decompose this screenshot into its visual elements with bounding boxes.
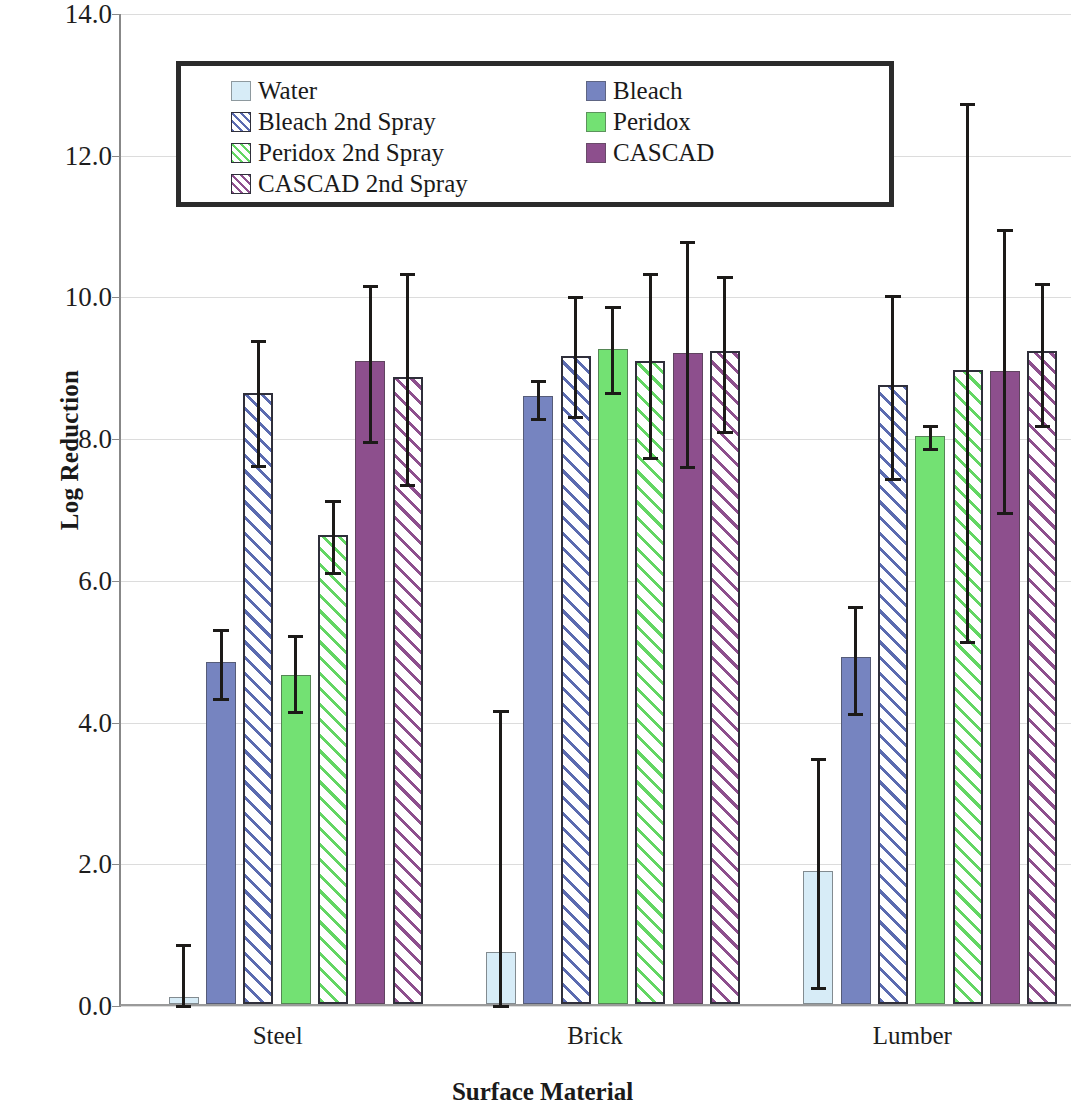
- y-axis-tick: [112, 297, 121, 298]
- y-axis-tick: [112, 1006, 121, 1007]
- error-bar-cap-upper: [848, 606, 864, 609]
- error-bar-cap-lower: [568, 416, 584, 419]
- y-axis-tick-label: 14.0: [16, 1, 112, 28]
- error-bar-cap-upper: [288, 635, 304, 638]
- error-bar: [817, 759, 820, 988]
- legend-label: Bleach 2nd Spray: [258, 109, 436, 134]
- x-axis-tick-label: Brick: [436, 1022, 753, 1050]
- error-bar-cap-lower: [997, 512, 1013, 515]
- error-bar-cap-lower: [717, 431, 733, 434]
- error-bar: [723, 278, 726, 432]
- legend-label: CASCAD 2nd Spray: [258, 171, 468, 196]
- legend-label: Peridox: [613, 109, 691, 134]
- error-bar-cap-lower: [885, 478, 901, 481]
- legend-swatch-icon: [586, 143, 606, 163]
- error-bar: [574, 297, 577, 417]
- y-axis-tick-label: 12.0: [16, 142, 112, 169]
- legend-item: CASCAD 2nd Spray: [231, 168, 586, 199]
- y-axis-tick: [112, 723, 121, 724]
- y-axis-tick-label: 0.0: [16, 993, 112, 1020]
- error-bar-cap-upper: [531, 380, 547, 383]
- legend-label: Water: [258, 78, 317, 103]
- error-bar-cap-lower: [288, 711, 304, 714]
- error-bar-cap-upper: [643, 273, 659, 276]
- y-axis-tick-label: 6.0: [16, 567, 112, 594]
- y-axis-tick-label: 10.0: [16, 284, 112, 311]
- error-bar-cap-lower: [251, 465, 267, 468]
- legend-label: CASCAD: [613, 140, 714, 165]
- error-bar: [1041, 285, 1044, 427]
- error-bar-cap-upper: [325, 500, 341, 503]
- error-bar-cap-upper: [568, 296, 584, 299]
- error-bar-cap-lower: [605, 392, 621, 395]
- gridline: [121, 1006, 1071, 1007]
- bar: [318, 535, 348, 1004]
- bar: [1027, 351, 1057, 1004]
- y-axis-tick-labels: 0.02.04.06.08.010.012.014.0: [0, 0, 112, 1111]
- error-bar-cap-lower: [960, 641, 976, 644]
- bar-chart: Log Reduction 0.02.04.06.08.010.012.014.…: [0, 0, 1085, 1111]
- error-bar-cap-lower: [643, 457, 659, 460]
- error-bar-cap-upper: [176, 944, 192, 947]
- error-bar: [499, 712, 502, 1006]
- y-axis-tick-label: 2.0: [16, 851, 112, 878]
- error-bar: [649, 275, 652, 459]
- error-bar-cap-upper: [680, 241, 696, 244]
- error-bar: [611, 307, 614, 393]
- error-bar-cap-upper: [493, 710, 509, 713]
- legend-item: CASCAD: [586, 137, 889, 168]
- legend-swatch-icon: [586, 81, 606, 101]
- error-bar: [686, 242, 689, 467]
- error-bar-cap-lower: [811, 987, 827, 990]
- error-bar-cap-lower: [325, 572, 341, 575]
- error-bar-cap-upper: [251, 340, 267, 343]
- error-bar-cap-upper: [1035, 283, 1051, 286]
- bar: [598, 349, 628, 1004]
- legend-label: Peridox 2nd Spray: [258, 140, 444, 165]
- bar: [710, 351, 740, 1004]
- error-bar-cap-upper: [997, 229, 1013, 232]
- error-bar-cap-upper: [363, 285, 379, 288]
- error-bar-cap-lower: [400, 484, 416, 487]
- bar: [355, 361, 385, 1004]
- legend-swatch-icon: [231, 81, 251, 101]
- legend-swatch-icon: [231, 112, 251, 132]
- y-axis-tick-label: 4.0: [16, 709, 112, 736]
- error-bar-cap-upper: [960, 103, 976, 106]
- error-bar-cap-lower: [176, 1005, 192, 1008]
- error-bar-cap-upper: [605, 306, 621, 309]
- legend-item: Bleach 2nd Spray: [231, 106, 586, 137]
- error-bar-cap-lower: [848, 713, 864, 716]
- chart-legend: WaterBleachBleach 2nd SprayPeridoxPerido…: [176, 61, 894, 207]
- error-bar-cap-lower: [1035, 425, 1051, 428]
- error-bar: [369, 287, 372, 443]
- y-axis-tick: [112, 439, 121, 440]
- error-bar: [966, 105, 969, 643]
- error-bar-cap-upper: [213, 629, 229, 632]
- x-axis-tick-label: Steel: [119, 1022, 436, 1050]
- legend-swatch-icon: [231, 143, 251, 163]
- legend-swatch-icon: [231, 174, 251, 194]
- bar: [915, 436, 945, 1004]
- legend-item: Peridox: [586, 106, 889, 137]
- error-bar: [1003, 230, 1006, 513]
- y-axis-tick: [112, 156, 121, 157]
- y-axis-tick-label: 8.0: [16, 426, 112, 453]
- x-axis-title: Surface Material: [0, 1078, 1085, 1106]
- bar: [523, 396, 553, 1004]
- error-bar: [220, 630, 223, 699]
- error-bar: [854, 608, 857, 714]
- error-bar-cap-upper: [923, 425, 939, 428]
- error-bar-cap-lower: [923, 448, 939, 451]
- y-axis-tick: [112, 14, 121, 15]
- error-bar: [406, 274, 409, 485]
- error-bar: [182, 946, 185, 1006]
- bar: [281, 675, 311, 1004]
- legend-grid: WaterBleachBleach 2nd SprayPeridoxPerido…: [181, 75, 889, 199]
- error-bar: [537, 381, 540, 419]
- legend-item: Peridox 2nd Spray: [231, 137, 586, 168]
- bar: [206, 662, 236, 1004]
- error-bar-cap-lower: [680, 466, 696, 469]
- legend-item: Bleach: [586, 75, 889, 106]
- error-bar-cap-upper: [400, 273, 416, 276]
